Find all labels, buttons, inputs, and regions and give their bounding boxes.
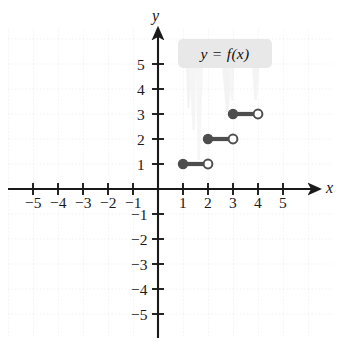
closed-endpoint-dot — [228, 109, 237, 118]
y-tick-label-4: 4 — [137, 82, 145, 98]
y-tick-label--2: −2 — [131, 232, 148, 248]
x-tick-label-2: 2 — [204, 195, 212, 211]
open-endpoint-circle — [254, 110, 263, 119]
grid-lines — [8, 28, 333, 338]
y-tick-label--5: −5 — [131, 307, 148, 323]
x-tick-label--5: −5 — [25, 195, 42, 211]
y-tick-label--3: −3 — [131, 257, 148, 273]
y-tick-label-5: 5 — [137, 57, 145, 73]
open-endpoint-circle — [229, 135, 238, 144]
y-tick-label-1: 1 — [137, 157, 145, 173]
coordinate-plane — [0, 0, 343, 349]
y-tick-label--1: −1 — [131, 207, 148, 223]
y-axis-label: y — [152, 8, 159, 24]
function-label: y = f(x) — [178, 39, 272, 68]
x-tick-label-1: 1 — [179, 195, 187, 211]
x-tick-label--4: −4 — [50, 195, 67, 211]
graph-figure: x y −5 −4 −3 −2 −1 1 2 3 4 5 5 4 3 2 1 −… — [0, 0, 343, 349]
y-tick-label-3: 3 — [137, 107, 145, 123]
y-tick-label-2: 2 — [137, 132, 145, 148]
x-tick-label-4: 4 — [254, 195, 262, 211]
x-tick-label-5: 5 — [279, 195, 287, 211]
closed-endpoint-dot — [178, 159, 187, 168]
closed-endpoint-dot — [203, 134, 212, 143]
open-endpoint-circle — [204, 160, 213, 169]
x-tick-label--2: −2 — [100, 195, 117, 211]
y-tick-label--4: −4 — [131, 282, 148, 298]
x-axis-label: x — [326, 180, 333, 196]
x-tick-label--3: −3 — [75, 195, 92, 211]
x-tick-label-3: 3 — [229, 195, 237, 211]
